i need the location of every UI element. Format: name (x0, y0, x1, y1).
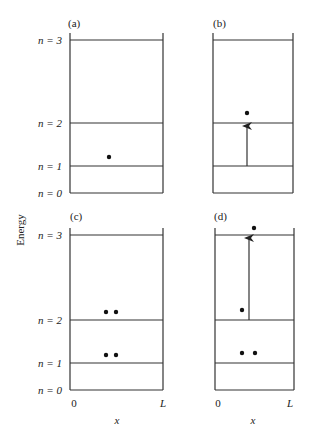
panel-label-c: (c) (70, 210, 83, 223)
level-label-n3: n = 3 (38, 229, 62, 241)
panel-label-a: (a) (68, 17, 81, 30)
level-label-n0: n = 0 (38, 187, 62, 199)
x-start-label: 0 (215, 397, 221, 409)
electron-dot (245, 111, 249, 115)
level-label-n1: n = 1 (38, 357, 62, 369)
panel-c: (c) n = 3 n = 2 n = 1 n = 0 0 L x (38, 210, 166, 426)
panel-label-d: (d) (214, 210, 227, 223)
panel-b: (b) (213, 17, 293, 193)
level-label-n2: n = 2 (38, 314, 62, 326)
x-axis-label: x (250, 414, 256, 426)
y-axis-label: Energy (14, 214, 26, 246)
panel-d: (d) 0 L x (214, 210, 294, 426)
level-label-n1: n = 1 (38, 160, 62, 172)
level-label-n3: n = 3 (38, 34, 62, 46)
panel-label-b: (b) (213, 17, 226, 30)
x-start-label: 0 (71, 397, 77, 409)
x-end-label: L (159, 397, 166, 409)
energy-level-diagram: Energy (a) n = 3 n = 2 n = 1 n = 0 (b) (… (0, 0, 309, 437)
x-axis-label: x (114, 414, 120, 426)
panel-a: (a) n = 3 n = 2 n = 1 n = 0 (38, 17, 163, 199)
level-label-n0: n = 0 (38, 384, 62, 396)
level-label-n2: n = 2 (38, 117, 62, 129)
electron-dot (107, 155, 111, 159)
x-end-label: L (286, 397, 293, 409)
